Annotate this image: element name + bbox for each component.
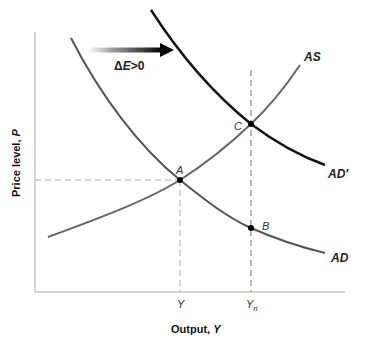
x-tick-yn: Yn <box>246 298 258 313</box>
point-c-marker <box>248 121 254 127</box>
point-b-marker <box>248 225 254 231</box>
y-axis-title: Price level, P <box>10 128 22 197</box>
shift-arrow-head <box>160 43 174 57</box>
x-axis-title: Output, Y <box>171 323 222 335</box>
ad-curve-label: AD <box>330 251 349 265</box>
ad-curve <box>71 38 325 253</box>
point-c-label: C <box>234 120 242 132</box>
ad-as-diagram: ΔE>0 A B C AS AD′ AD Y Yn Output, Y Pric… <box>0 0 370 343</box>
x-tick-y: Y <box>177 298 185 310</box>
as-curve <box>48 65 300 237</box>
as-curve-label: AS <box>303 50 321 64</box>
point-a-label: A <box>175 164 183 176</box>
shift-arrow-shaft <box>88 48 162 53</box>
shift-arrow-label: ΔE>0 <box>114 59 145 73</box>
ad-prime-curve <box>151 10 325 165</box>
point-b-label: B <box>262 220 269 232</box>
point-a-marker <box>177 177 183 183</box>
ad-prime-curve-label: AD′ <box>327 167 349 181</box>
